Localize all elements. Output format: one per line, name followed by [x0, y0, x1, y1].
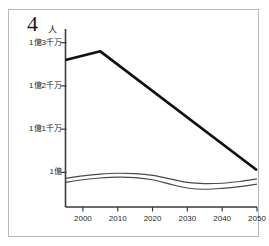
plot-area — [0, 0, 269, 246]
series-line-0 — [66, 51, 258, 170]
figure-chart-4: 4 人 1億1億1千万1億2千万1億3千万 200020102020203020… — [0, 0, 269, 246]
axes — [61, 29, 257, 212]
data-series-group — [66, 51, 258, 189]
